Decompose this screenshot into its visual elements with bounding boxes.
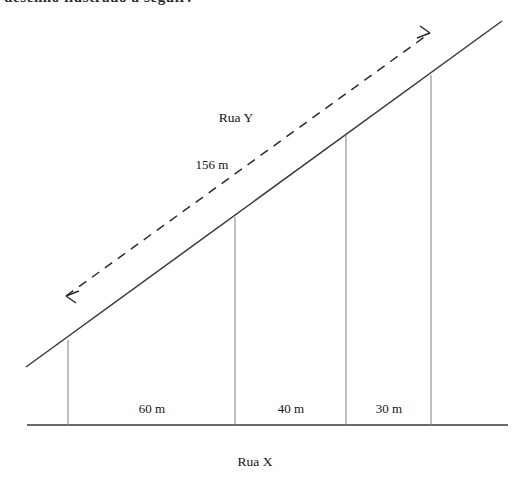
label-segment-60m: 60 m <box>139 401 165 417</box>
label-rua-y: Rua Y <box>219 110 253 126</box>
geometry-figure <box>0 0 525 490</box>
label-segment-30m: 30 m <box>376 401 402 417</box>
label-rua-x: Rua X <box>238 454 273 470</box>
diagram-canvas: desenho ilustrado a seguir: Rua Y 156 m … <box>0 0 525 490</box>
arrowhead-left-icon <box>66 291 79 303</box>
label-hypotenuse-156m: 156 m <box>196 157 229 173</box>
dashed-measure-line <box>66 33 430 296</box>
label-segment-40m: 40 m <box>278 401 304 417</box>
arrowhead-right-icon <box>417 26 430 38</box>
